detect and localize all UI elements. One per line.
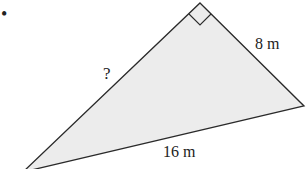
hypotenuse-label: ?: [103, 64, 111, 83]
problem-bullet: •: [1, 4, 7, 24]
leg-label: 8 m: [255, 35, 280, 52]
base-label: 16 m: [163, 143, 196, 160]
diagram-canvas: • ? 8 m 16 m: [0, 0, 307, 169]
triangle-figure: • ? 8 m 16 m: [0, 0, 307, 169]
